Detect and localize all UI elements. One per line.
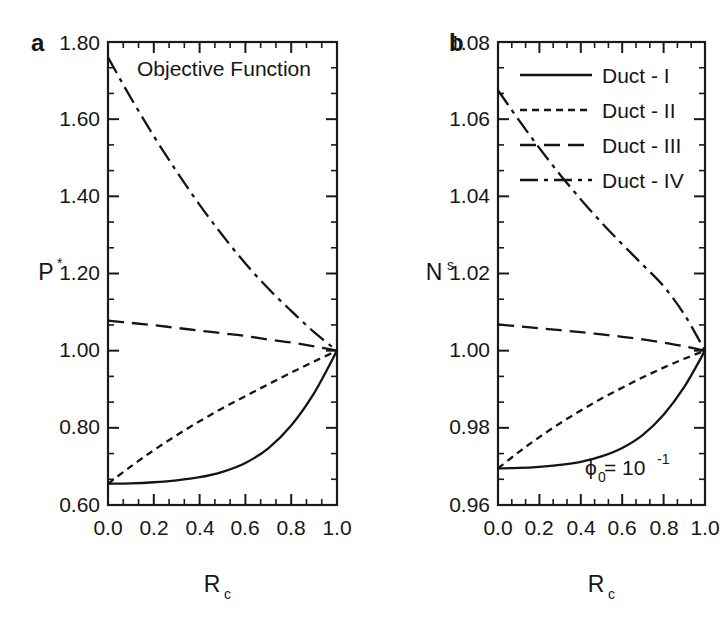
y-tick-label: 1.00 bbox=[449, 338, 490, 361]
y-tick-label: 1.08 bbox=[449, 31, 490, 54]
y-tick-label: 1.04 bbox=[449, 184, 490, 207]
x-tick-label: 1.0 bbox=[690, 516, 719, 539]
y-axis-title-superscript: * bbox=[57, 255, 63, 271]
x-tick-label: 0.4 bbox=[566, 516, 596, 539]
y-tick-label: 1.20 bbox=[59, 261, 100, 284]
panel-a-curves bbox=[108, 57, 337, 483]
panel-a-y-tick-labels: 0.60 0.80 1.00 1.20 1.40 1.60 1.80 bbox=[59, 31, 100, 516]
y-axis-title-base: P bbox=[38, 259, 53, 285]
panel-a-letter: a bbox=[31, 29, 45, 56]
x-tick-label: 0.4 bbox=[185, 516, 215, 539]
x-tick-label: 0.6 bbox=[230, 516, 259, 539]
x-tick-label: 0.0 bbox=[483, 516, 512, 539]
legend-label: Duct - IV bbox=[602, 169, 684, 192]
panel-a-ticks bbox=[108, 42, 337, 505]
legend-label: Duct - I bbox=[602, 64, 670, 87]
panel-a-x-tick-labels: 0.0 0.2 0.4 0.6 0.8 1.0 bbox=[93, 516, 351, 539]
panel-a: a Objective Function 0.60 0.80 1.00 1.20… bbox=[31, 29, 352, 602]
x-tick-label: 1.0 bbox=[322, 516, 351, 539]
y-axis-title-base: N bbox=[426, 259, 443, 285]
annotation-exponent: -1 bbox=[657, 451, 670, 467]
y-axis-title-subscript: s bbox=[447, 257, 454, 273]
y-tick-label: 1.00 bbox=[59, 338, 100, 361]
curve-duct-iv bbox=[108, 57, 337, 350]
y-tick-label: 1.40 bbox=[59, 184, 100, 207]
legend-entry[interactable]: Duct - II bbox=[520, 99, 676, 122]
y-tick-label: 0.98 bbox=[449, 415, 490, 438]
legend-entry[interactable]: Duct - IV bbox=[520, 169, 684, 192]
panel-b-y-tick-labels: 0.96 0.98 1.00 1.02 1.04 1.06 1.08 bbox=[449, 31, 490, 516]
figure-root: a Objective Function 0.60 0.80 1.00 1.20… bbox=[0, 0, 723, 631]
y-tick-label: 0.60 bbox=[59, 493, 100, 516]
legend-label: Duct - III bbox=[602, 134, 681, 157]
annotation-equals-ten: = 10 bbox=[604, 456, 645, 479]
curve-duct-iii bbox=[498, 324, 705, 350]
curve-duct-iii bbox=[108, 321, 337, 351]
panel-b-x-axis-title: R c bbox=[588, 571, 615, 602]
y-tick-label: 0.96 bbox=[449, 493, 490, 516]
x-axis-title-subscript: c bbox=[608, 586, 615, 602]
x-axis-title-base: R bbox=[588, 571, 605, 597]
x-axis-title-subscript: c bbox=[224, 586, 231, 602]
y-tick-label: 1.80 bbox=[59, 31, 100, 54]
panel-a-annotation: Objective Function bbox=[137, 57, 311, 80]
panel-b: b 0.96 0.98 1.00 1.02 1.04 1.06 1.08 0.0… bbox=[426, 29, 720, 602]
panel-b-x-tick-labels: 0.0 0.2 0.4 0.6 0.8 1.0 bbox=[483, 516, 719, 539]
panel-a-plot-frame bbox=[108, 42, 337, 505]
x-axis-title-base: R bbox=[204, 571, 221, 597]
y-tick-label: 0.80 bbox=[59, 415, 100, 438]
legend-entry[interactable]: Duct - I bbox=[520, 64, 670, 87]
x-tick-label: 0.8 bbox=[276, 516, 305, 539]
curve-duct-ii bbox=[108, 351, 337, 484]
curve-duct-ii bbox=[498, 351, 705, 469]
panel-a-x-axis-title: R c bbox=[204, 571, 231, 602]
x-tick-label: 0.0 bbox=[93, 516, 122, 539]
curve-duct-i bbox=[108, 351, 337, 484]
x-tick-label: 0.2 bbox=[139, 516, 168, 539]
y-tick-label: 1.60 bbox=[59, 107, 100, 130]
legend: Duct - I Duct - II Duct - III Duct - IV bbox=[520, 64, 684, 192]
panel-b-annotation: ϕ 0 = 10 -1 bbox=[585, 451, 670, 485]
x-tick-label: 0.8 bbox=[649, 516, 678, 539]
legend-label: Duct - II bbox=[602, 99, 676, 122]
curve-duct-i bbox=[498, 351, 705, 469]
y-tick-label: 1.06 bbox=[449, 107, 490, 130]
curve-duct-iv bbox=[498, 90, 705, 350]
x-tick-label: 0.2 bbox=[524, 516, 553, 539]
scientific-figure: a Objective Function 0.60 0.80 1.00 1.20… bbox=[0, 0, 723, 631]
x-tick-label: 0.6 bbox=[607, 516, 636, 539]
y-tick-label: 1.02 bbox=[449, 261, 490, 284]
